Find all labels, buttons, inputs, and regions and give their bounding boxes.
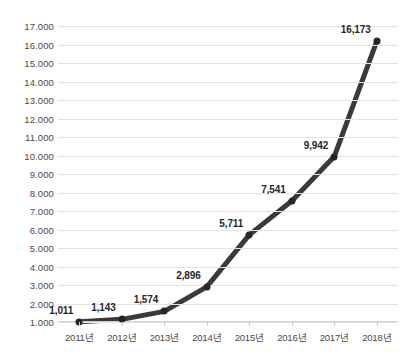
y-axis-tick-label: 10.000 bbox=[0, 150, 54, 161]
y-axis-tick-label: 9.000 bbox=[0, 169, 54, 180]
x-axis-tick-label: 2012년 bbox=[107, 330, 136, 344]
data-point-label: 9,942 bbox=[304, 139, 329, 150]
data-point-marker[interactable] bbox=[203, 283, 210, 290]
gridline bbox=[58, 211, 398, 212]
y-axis-tick-label: 11.000 bbox=[0, 132, 54, 143]
gridline bbox=[58, 285, 398, 286]
x-axis-tickmark bbox=[292, 322, 293, 326]
x-axis-tickmark bbox=[377, 322, 378, 326]
gridline bbox=[58, 248, 398, 249]
data-point-label: 1,574 bbox=[134, 294, 159, 305]
y-axis-tick-label: 2.000 bbox=[0, 298, 54, 309]
x-axis-tick-label: 2016년 bbox=[277, 330, 306, 344]
y-axis-tick-label: 3.000 bbox=[0, 280, 54, 291]
y-axis-tick-label: 5.000 bbox=[0, 243, 54, 254]
x-axis-tickmark bbox=[207, 322, 208, 326]
y-axis-tick-label: 7.000 bbox=[0, 206, 54, 217]
y-axis-tick-label: 12.000 bbox=[0, 113, 54, 124]
data-point-marker[interactable] bbox=[331, 153, 338, 160]
y-axis-tick-label: 4.000 bbox=[0, 261, 54, 272]
x-axis-tick-label: 2014년 bbox=[192, 330, 221, 344]
y-axis-tick-label: 17.000 bbox=[0, 21, 54, 32]
x-axis-tick-label: 2018년 bbox=[362, 330, 391, 344]
y-axis-tick-label: 15.000 bbox=[0, 58, 54, 69]
data-point-label: 5,711 bbox=[219, 217, 243, 228]
gridline bbox=[58, 100, 398, 101]
plot-area: 1,0111,1431,5742,8965,7117,5419,94216,17… bbox=[58, 26, 398, 322]
x-axis-tickmark bbox=[164, 322, 165, 326]
y-axis: 1.0002.0003.0004.0005.0006.0007.0008.000… bbox=[0, 0, 54, 363]
data-point-label: 2,896 bbox=[176, 269, 201, 280]
gridline bbox=[58, 63, 398, 64]
x-axis-tick-label: 2017년 bbox=[320, 330, 349, 344]
data-point-marker[interactable] bbox=[246, 231, 253, 238]
data-point-marker[interactable] bbox=[288, 197, 295, 204]
x-axis-tickmark bbox=[79, 322, 80, 326]
x-axis-tickmark bbox=[334, 322, 335, 326]
x-axis: 2011년2012년2013년2014년2015년2016년2017년2018년 bbox=[58, 330, 398, 350]
y-axis-tick-label: 13.000 bbox=[0, 95, 54, 106]
data-point-label: 1,011 bbox=[49, 304, 73, 315]
gridline bbox=[58, 156, 398, 157]
data-point-label: 1,143 bbox=[91, 302, 116, 313]
x-axis-tick-label: 2013년 bbox=[150, 330, 179, 344]
data-point-label: 16,173 bbox=[341, 24, 371, 35]
x-axis-tick-label: 2011년 bbox=[65, 330, 93, 344]
gridline bbox=[58, 230, 398, 231]
y-axis-tick-label: 6.000 bbox=[0, 224, 54, 235]
gridline bbox=[58, 267, 398, 268]
gridline bbox=[58, 137, 398, 138]
data-point-label: 7,541 bbox=[261, 183, 286, 194]
x-axis-tickmark bbox=[249, 322, 250, 326]
gridline bbox=[58, 82, 398, 83]
y-axis-tick-label: 8.000 bbox=[0, 187, 54, 198]
data-point-marker[interactable] bbox=[373, 38, 380, 45]
x-axis-tick-label: 2015년 bbox=[235, 330, 264, 344]
x-axis-tickmark bbox=[122, 322, 123, 326]
gridline bbox=[58, 174, 398, 175]
y-axis-tick-label: 16.000 bbox=[0, 39, 54, 50]
line-chart: 1.0002.0003.0004.0005.0006.0007.0008.000… bbox=[0, 0, 413, 363]
gridline bbox=[58, 45, 398, 46]
gridline bbox=[58, 193, 398, 194]
y-axis-tick-label: 14.000 bbox=[0, 76, 54, 87]
data-point-marker[interactable] bbox=[161, 308, 168, 315]
gridline bbox=[58, 322, 398, 323]
y-axis-tick-label: 1.000 bbox=[0, 317, 54, 328]
gridline bbox=[58, 119, 398, 120]
